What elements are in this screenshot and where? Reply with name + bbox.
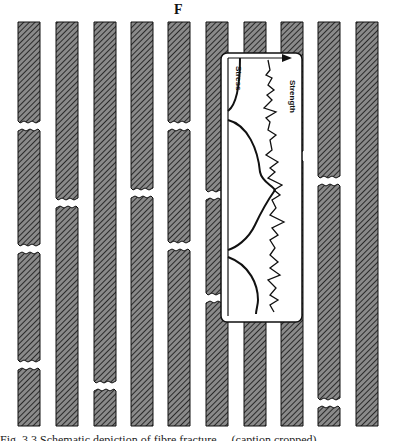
fibre-segment (356, 22, 378, 426)
fibre (94, 22, 116, 426)
fibre-bundle-diagram: Stress Strength (0, 0, 393, 441)
strength-label: Strength (288, 80, 297, 113)
fibre (356, 22, 378, 426)
fibre-segment (56, 22, 78, 200)
stress-strength-inset: Stress Strength (221, 53, 302, 322)
fibre (18, 22, 40, 426)
fibres-group (18, 22, 378, 426)
fibre-segment (131, 196, 153, 426)
fibre-segment (318, 406, 340, 426)
fibre-segment (318, 22, 340, 178)
stress-label: Stress (234, 66, 243, 91)
fibre-segment (56, 206, 78, 426)
fibre (56, 22, 78, 426)
fibre-segment (131, 22, 153, 190)
fibre-segment (18, 368, 40, 426)
fibre-segment (168, 22, 190, 123)
fibre-segment (318, 184, 340, 400)
fibre-segment (18, 129, 40, 246)
fibre-segment (94, 22, 116, 383)
fibre (168, 22, 190, 426)
fibre (131, 22, 153, 426)
fibre-segment (168, 249, 190, 426)
fibre-segment (18, 252, 40, 362)
fibre-segment (168, 129, 190, 243)
fibre-segment (18, 22, 40, 123)
figure-caption: Fig. 3.3 Schematic depiction of fibre fr… (0, 432, 393, 441)
fibre-segment (94, 389, 116, 426)
fibre (318, 22, 340, 426)
